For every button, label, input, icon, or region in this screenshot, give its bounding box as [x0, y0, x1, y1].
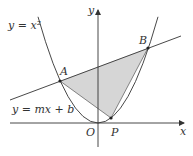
y-axis-label: y — [87, 4, 95, 17]
point-a-label: A — [59, 65, 68, 78]
point-p-label: P — [110, 126, 119, 139]
origin-label: O — [86, 126, 95, 139]
point-b-label: B — [138, 34, 147, 47]
parabola-equation-label: y = x² — [7, 19, 41, 32]
point-p-dot — [109, 116, 112, 119]
line-equation-label: y = mx + b — [11, 103, 74, 116]
point-a-dot — [58, 79, 61, 82]
x-axis-label: x — [180, 125, 187, 138]
parabola-line-diagram: y = x² y = mx + b A B P O x y — [0, 0, 193, 156]
